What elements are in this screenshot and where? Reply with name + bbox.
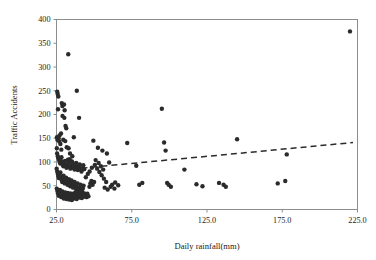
x-axis-title: Daily rainfall(mm): [174, 241, 239, 251]
scatter-point: [182, 167, 186, 171]
y-tick-label: 200: [38, 110, 50, 119]
scatter-point: [285, 152, 289, 156]
scatter-point: [163, 148, 167, 152]
scatter-point: [81, 184, 85, 188]
x-tick-label: 75.0: [125, 216, 139, 225]
scatter-point: [348, 29, 352, 33]
scatter-point: [125, 141, 129, 145]
scatter-point: [77, 116, 81, 120]
scatter-point: [217, 181, 221, 185]
scatter-point: [62, 108, 66, 112]
scatter-point: [140, 181, 144, 185]
scatter-point: [116, 183, 120, 187]
scatter-chart-figure: 050100150200250300350400 25.075.0125.017…: [0, 0, 376, 260]
scatter-point: [276, 181, 280, 185]
scatter-point: [62, 102, 66, 106]
x-tick-label: 175.0: [273, 216, 291, 225]
scatter-point: [160, 107, 164, 111]
chart-canvas: 050100150200250300350400 25.075.0125.017…: [0, 0, 376, 260]
y-axis-tick-labels: 050100150200250300350400: [38, 15, 50, 214]
scatter-point: [108, 185, 112, 189]
plot-frame: [57, 20, 358, 210]
scatter-point: [112, 186, 116, 190]
scatter-points-group: [54, 29, 352, 202]
scatter-point: [107, 160, 111, 164]
scatter-point: [91, 138, 95, 142]
scatter-point: [101, 167, 105, 171]
scatter-point: [200, 184, 204, 188]
y-tick-label: 100: [38, 158, 50, 167]
x-axis-tick-labels: 25.075.0125.0175.0225.0: [49, 216, 366, 225]
y-tick-label: 400: [38, 15, 50, 24]
scatter-point: [169, 185, 173, 189]
scatter-point: [56, 107, 60, 111]
scatter-point: [58, 170, 62, 174]
scatter-point: [224, 185, 228, 189]
scatter-point: [96, 146, 100, 150]
scatter-point: [56, 94, 60, 98]
scatter-point: [134, 164, 138, 168]
y-tick-label: 250: [38, 87, 50, 96]
scatter-point: [100, 148, 104, 152]
scatter-point: [63, 139, 67, 143]
scatter-point: [105, 151, 109, 155]
scatter-point: [55, 146, 59, 150]
scatter-point: [86, 194, 90, 198]
scatter-point: [62, 116, 66, 120]
scatter-point: [92, 180, 96, 184]
y-tick-label: 0: [46, 205, 50, 214]
y-tick-label: 50: [42, 182, 50, 191]
scatter-point: [59, 131, 63, 135]
scatter-point: [66, 52, 70, 56]
x-tick-label: 25.0: [49, 216, 63, 225]
scatter-point: [72, 135, 76, 139]
scatter-point: [162, 140, 166, 144]
y-tick-label: 300: [38, 63, 50, 72]
scatter-point: [66, 146, 70, 150]
scatter-point: [58, 142, 62, 146]
scatter-point: [81, 163, 85, 167]
scatter-point: [235, 137, 239, 141]
scatter-point: [59, 147, 63, 151]
x-tick-label: 125.0: [198, 216, 216, 225]
x-tick-label: 225.0: [348, 216, 366, 225]
scatter-point: [104, 180, 108, 184]
scatter-point: [283, 179, 287, 183]
scatter-point: [59, 155, 63, 159]
scatter-point: [87, 169, 91, 173]
y-tick-label: 350: [38, 39, 50, 48]
y-axis-title: Traffic Accidents: [9, 85, 19, 145]
scatter-point: [194, 182, 198, 186]
trend-line: [72, 143, 353, 170]
y-tick-label: 150: [38, 134, 50, 143]
scatter-point: [64, 126, 68, 130]
scatter-point: [75, 89, 79, 93]
